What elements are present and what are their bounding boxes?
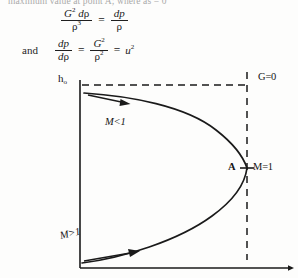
subsonic-branch-curve	[84, 93, 247, 168]
equation-1-equals: =	[98, 14, 105, 26]
cropped-header-text: maximum value at point A; where as = 0	[8, 0, 292, 7]
equation-1-left-numerator: G2 dρ	[61, 8, 92, 19]
g-zero-label: G=0	[258, 71, 276, 82]
equation-1-left-denominator: ρ3	[69, 21, 84, 32]
subsonic-label: M<1	[105, 116, 125, 127]
equation-2-equals-2: =	[114, 44, 121, 56]
sonic-point-label: M=1	[253, 161, 273, 172]
point-a-label: A	[228, 161, 236, 172]
supersonic-direction-arrow-shaft	[84, 252, 136, 261]
equation-2-right-term: u2	[125, 44, 134, 56]
equation-2-equals-1: =	[78, 44, 85, 56]
equation-1-right-fraction: dp ρ	[111, 8, 128, 33]
h-axis-label-subscript: o	[64, 78, 68, 86]
supersonic-branch-curve	[82, 168, 247, 263]
equation-1: G2 dρ ρ3 = dp ρ	[60, 8, 129, 33]
equation-1-right-denominator: ρ	[113, 21, 125, 32]
s-axis-arrowhead	[288, 265, 294, 271]
equation-2-middle-numerator: G2	[90, 38, 107, 49]
equation-2-left-numerator: dp	[55, 38, 72, 49]
subsonic-direction-arrowhead	[120, 99, 131, 106]
h-axis-label: ho	[58, 72, 67, 86]
equation-1-left-fraction: G2 dρ ρ3	[61, 8, 92, 33]
equation-1-right-numerator: dp	[111, 8, 128, 19]
fanno-line-diagram: ho G=0 M<1 M>1 A M=1	[0, 60, 298, 278]
equation-2-lead-word: and	[22, 44, 38, 56]
